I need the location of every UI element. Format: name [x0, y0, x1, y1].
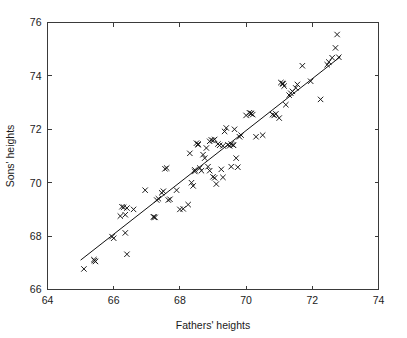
data-point-marker [185, 202, 190, 207]
scatter-plot-figure: 646668707274 666870727476 Fathers' heigh… [0, 0, 407, 338]
data-point-marker [334, 32, 339, 37]
data-point-marker [118, 213, 123, 218]
data-point-marker [199, 168, 204, 173]
data-point-marker [81, 266, 86, 271]
data-point-marker [260, 132, 265, 137]
y-tick-label: 74 [30, 70, 42, 82]
data-point-marker [187, 151, 192, 156]
y-axis-title: Sons' heights [4, 125, 16, 188]
y-tick-label: 68 [30, 230, 42, 242]
x-tick-label: 66 [108, 294, 120, 306]
data-point-markers [81, 32, 341, 272]
data-point-marker [174, 187, 179, 192]
y-tick-label: 72 [30, 123, 42, 135]
data-point-marker [333, 45, 338, 50]
x-tick-label: 68 [174, 294, 186, 306]
x-tick-label: 72 [306, 294, 318, 306]
y-tick-label: 76 [30, 16, 42, 28]
data-point-marker [231, 143, 236, 148]
y-tick-label: 70 [30, 177, 42, 189]
x-tick-label: 64 [42, 294, 54, 306]
data-point-marker [111, 236, 116, 241]
data-point-marker [123, 212, 128, 217]
regression-line [81, 57, 341, 260]
data-point-marker [212, 137, 217, 142]
regression-line-segment [81, 57, 341, 260]
data-point-marker [280, 81, 285, 86]
data-point-marker [214, 181, 219, 186]
data-point-marker [220, 175, 225, 180]
data-point-marker [123, 230, 128, 235]
data-point-marker [233, 155, 238, 160]
data-point-marker [300, 63, 305, 68]
data-point-marker [131, 207, 136, 212]
x-tick-label: 74 [373, 294, 385, 306]
data-point-marker [283, 102, 288, 107]
data-point-marker [318, 97, 323, 102]
data-point-marker [232, 127, 237, 132]
x-axis-tick-labels: 646668707274 [42, 294, 385, 306]
data-point-marker [219, 167, 224, 172]
data-point-marker [161, 189, 166, 194]
data-point-marker [212, 175, 217, 180]
x-tick-label: 70 [240, 294, 252, 306]
data-point-marker [229, 164, 234, 169]
data-point-marker [253, 134, 258, 139]
data-point-marker [329, 55, 334, 60]
data-point-marker [181, 206, 186, 211]
data-point-marker [204, 145, 209, 150]
y-tick-label: 66 [30, 283, 42, 295]
data-point-marker [277, 115, 282, 120]
data-point-marker [235, 165, 240, 170]
data-point-marker [124, 252, 129, 257]
x-axis-title: Fathers' heights [176, 319, 250, 331]
plot-canvas: 646668707274 666870727476 Fathers' heigh… [0, 0, 407, 338]
y-axis-tick-labels: 666870727476 [30, 16, 42, 295]
data-point-marker [195, 142, 200, 147]
data-point-marker [142, 187, 147, 192]
